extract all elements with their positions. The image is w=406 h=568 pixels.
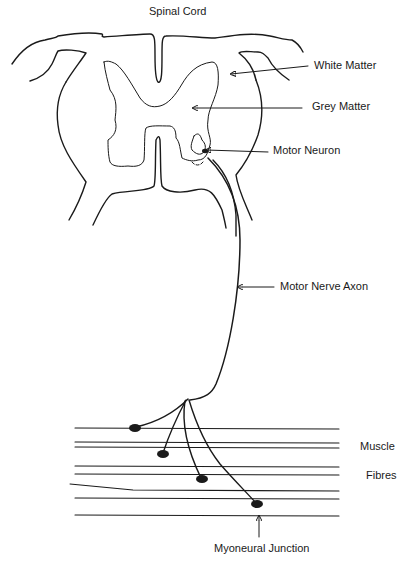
motor-neuron-nucleus (202, 149, 208, 153)
spinal-cord-right-side (236, 80, 262, 220)
arrow-white-matter (231, 66, 308, 74)
myoneural-junction-2 (157, 450, 169, 458)
right-dorsal-root (239, 51, 289, 80)
spinal-cord-top-outline (12, 33, 303, 82)
spinal-cord-left-side (57, 82, 86, 220)
myoneural-junction-1 (129, 424, 141, 432)
muscle-fibres (70, 428, 339, 516)
arrow-motor-neuron (206, 150, 268, 152)
myoneural-junction-4 (251, 500, 263, 508)
left-dorsal-root (30, 50, 86, 82)
spinal-cord-motor-unit-diagram (0, 0, 406, 568)
axon-branches (136, 399, 256, 503)
motor-neuron-dashed-boundary (192, 162, 203, 165)
myoneural-junction-3 (196, 475, 208, 483)
